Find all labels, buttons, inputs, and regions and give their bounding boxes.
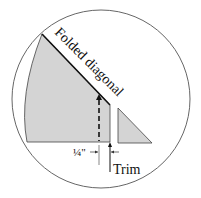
trim-label: Trim: [113, 162, 141, 177]
quilt-trim-diagram: ¼" Trim Folded diagonal: [0, 0, 201, 198]
quarter-inch-label: ¼": [73, 146, 86, 158]
